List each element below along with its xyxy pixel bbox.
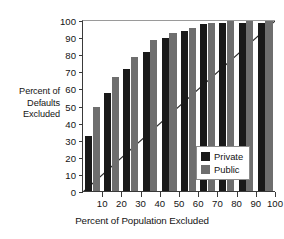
bar-public (93, 107, 100, 193)
y-tick-mark (79, 107, 84, 108)
bar-public (169, 33, 176, 192)
y-tick-label: 70 (65, 67, 76, 78)
y-tick-label: 90 (65, 33, 76, 44)
legend-label-private: Private (214, 152, 243, 162)
x-tick-label: 40 (154, 198, 165, 209)
y-tick-mark (79, 55, 84, 56)
y-axis-title-line-2: Defaults (2, 98, 60, 110)
bar-chart-figure: Percent of Defaults Excluded 01020304050… (0, 0, 284, 239)
y-tick-label: 80 (65, 50, 76, 61)
x-tick-mark (121, 192, 122, 197)
legend-swatch-public-icon (201, 165, 210, 174)
bar-public (131, 57, 138, 192)
y-axis-title-line-1: Percent of (2, 86, 60, 98)
bar-private (162, 38, 169, 192)
x-tick-mark (256, 192, 257, 197)
x-axis-title: Percent of Population Excluded (0, 215, 284, 226)
y-tick-mark (79, 175, 84, 176)
bar-group (104, 21, 119, 192)
bar-group (258, 21, 273, 192)
bar-private (143, 52, 150, 192)
x-tick-label: 20 (116, 198, 127, 209)
x-tick-label: 80 (231, 198, 242, 209)
bar-group (143, 21, 158, 192)
x-tick-mark (102, 192, 103, 197)
chart-legend: Private Public (196, 146, 250, 180)
x-tick-mark (217, 192, 218, 197)
legend-item-public: Public (201, 163, 243, 176)
x-tick-mark (237, 192, 238, 197)
legend-swatch-private-icon (201, 152, 210, 161)
y-tick-mark (79, 21, 84, 22)
x-tick-label: 90 (250, 198, 261, 209)
x-axis-line (82, 191, 275, 192)
y-tick-mark (79, 38, 84, 39)
y-axis-title-line-3: Excluded (2, 109, 60, 121)
bar-private (104, 93, 111, 192)
bar-private (258, 23, 265, 192)
x-tick-mark (275, 192, 276, 197)
x-tick-label: 50 (174, 198, 185, 209)
y-tick-mark (79, 89, 84, 90)
bar-public (112, 77, 119, 192)
bar-public (189, 28, 196, 192)
bar-public (150, 40, 157, 192)
bar-private (181, 31, 188, 192)
y-tick-label: 40 (65, 118, 76, 129)
y-tick-label: 0 (71, 187, 76, 198)
bar-group (123, 21, 138, 192)
x-tick-label: 10 (97, 198, 108, 209)
bar-public (265, 21, 272, 192)
x-tick-label: 60 (193, 198, 204, 209)
y-tick-label: 30 (65, 135, 76, 146)
y-tick-label: 20 (65, 152, 76, 163)
bar-private (85, 136, 92, 192)
legend-item-private: Private (201, 150, 243, 163)
y-tick-label: 60 (65, 84, 76, 95)
x-tick-label: 100 (267, 198, 283, 209)
x-tick-label: 70 (212, 198, 223, 209)
y-tick-label: 50 (65, 101, 76, 112)
x-tick-mark (179, 192, 180, 197)
y-tick-mark (79, 124, 84, 125)
x-tick-mark (198, 192, 199, 197)
bar-group (85, 21, 100, 192)
bar-group (181, 21, 196, 192)
y-tick-mark (79, 141, 84, 142)
legend-label-public: Public (214, 165, 240, 175)
y-tick-mark (79, 158, 84, 159)
bar-private (123, 69, 130, 192)
y-axis-title: Percent of Defaults Excluded (2, 86, 60, 121)
y-tick-mark (79, 72, 84, 73)
y-tick-label: 10 (65, 169, 76, 180)
y-tick-label: 100 (60, 16, 76, 27)
x-tick-mark (141, 192, 142, 197)
x-tick-label: 30 (135, 198, 146, 209)
bar-group (162, 21, 177, 192)
x-tick-mark (160, 192, 161, 197)
